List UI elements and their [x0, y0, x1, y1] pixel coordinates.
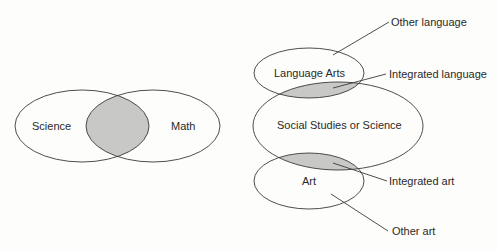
language-arts-label: Language Arts — [274, 67, 345, 79]
social-studies-science-label: Social Studies or Science — [277, 119, 402, 131]
other-art-label: Other art — [392, 225, 435, 237]
right-venn: Language Arts Social Studies or Science … — [253, 16, 487, 237]
venn-overlap-science-math — [86, 90, 220, 162]
science-label: Science — [32, 120, 71, 132]
art-label: Art — [302, 175, 316, 187]
diagram-canvas: Science Math Language Arts Social Studie… — [0, 0, 498, 251]
other-language-label: Other language — [391, 16, 467, 28]
integrated-art-label: Integrated art — [389, 175, 454, 187]
integrated-art-leader — [333, 163, 387, 181]
other-art-leader — [331, 194, 388, 231]
integrated-language-label: Integrated language — [389, 68, 487, 80]
left-venn: Science Math — [15, 90, 220, 162]
math-label: Math — [171, 120, 195, 132]
other-language-leader — [333, 22, 389, 55]
venn-diagrams: Science Math Language Arts Social Studie… — [0, 0, 498, 251]
